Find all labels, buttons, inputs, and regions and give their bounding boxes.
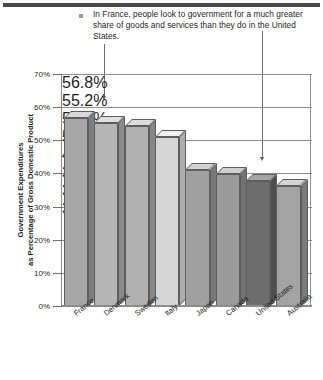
bar: [94, 116, 118, 306]
y-axis-tick: [53, 107, 62, 108]
bar-value-label: 56.8%: [62, 74, 312, 92]
bar: [185, 163, 209, 306]
y-axis-tick-label: 20%: [34, 235, 50, 244]
bar-front-face: [246, 181, 270, 306]
y-axis-tick-label: 70%: [34, 70, 50, 79]
bar-series: 56.8%55.2%54.4%51.0%41.0%39.7%37.8%36.1%: [62, 74, 312, 306]
bar-value-label: 55.2%: [62, 92, 312, 110]
bar: [125, 119, 149, 306]
y-axis-tick: [53, 140, 62, 141]
plot-area: Government Expenditures as Percentage of…: [61, 74, 311, 306]
bar-front-face: [216, 174, 240, 306]
bar-front-face: [185, 170, 209, 306]
chart-screenshot: In France, people look to government for…: [0, 0, 323, 380]
y-axis-tick: [53, 207, 62, 208]
y-axis-tick-label: 40%: [34, 169, 50, 178]
y-axis-tick: [53, 273, 62, 274]
bar: [155, 130, 179, 306]
y-axis-tick: [53, 306, 62, 307]
bar-side-face: [301, 179, 308, 306]
y-axis-title: Government Expenditures as Percentage of…: [16, 114, 35, 266]
bar: [216, 167, 240, 306]
annotation-text: In France, people look to government for…: [93, 9, 309, 43]
y-axis-title-line-1: Government Expenditures: [16, 114, 26, 266]
bar-front-face: [125, 126, 149, 306]
gridline: [62, 306, 312, 307]
y-axis-tick: [53, 173, 62, 174]
bar-front-face: [155, 137, 179, 306]
y-axis-tick: [53, 74, 62, 75]
top-divider-rule: [3, 3, 320, 7]
y-axis-tick-label: 0%: [38, 302, 50, 311]
y-axis-tick-label: 30%: [34, 202, 50, 211]
bar-front-face: [94, 123, 118, 306]
y-axis-tick-label: 60%: [34, 103, 50, 112]
bar-front-face: [64, 118, 88, 306]
bar: [64, 111, 88, 306]
y-axis-tick-label: 10%: [34, 268, 50, 277]
square-bullet-icon: [79, 14, 83, 18]
y-axis-tick-label: 50%: [34, 136, 50, 145]
y-axis-tick: [53, 240, 62, 241]
bar: [246, 174, 270, 306]
